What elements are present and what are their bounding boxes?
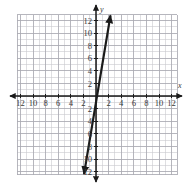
- x-tick-label: 2: [106, 98, 110, 108]
- y-tick-label: 6: [88, 53, 93, 63]
- y-tick-label: 4: [88, 116, 93, 126]
- x-tick-label: 12: [16, 98, 25, 108]
- x-tick-label: 4: [69, 98, 74, 108]
- graph-canvas: 12108642246810121210864224681012 x y: [0, 0, 192, 190]
- x-tick-label: 10: [155, 98, 164, 108]
- y-tick-label: 8: [88, 41, 92, 51]
- y-tick-label: 4: [88, 66, 93, 76]
- y-tick-label: 10: [83, 154, 92, 164]
- y-tick-label: 12: [83, 16, 92, 26]
- x-tick-label: 2: [81, 98, 85, 108]
- y-tick-label: 2: [88, 104, 92, 114]
- y-tick-label: 8: [88, 142, 92, 152]
- x-tick-label: 12: [167, 98, 176, 108]
- y-tick-label: 10: [83, 28, 92, 38]
- x-tick-label: 4: [119, 98, 124, 108]
- x-axis-label: x: [177, 81, 182, 90]
- y-axis-label: y: [99, 5, 104, 14]
- y-tick-label: 6: [88, 129, 93, 139]
- y-tick-label: 2: [88, 79, 92, 89]
- coordinate-plane-figure: 12108642246810121210864224681012 x y: [0, 0, 192, 190]
- x-tick-label: 10: [29, 98, 38, 108]
- x-tick-label: 8: [43, 98, 47, 108]
- x-tick-label: 6: [132, 98, 137, 108]
- x-tick-label: 6: [56, 98, 61, 108]
- x-tick-label: 8: [144, 98, 148, 108]
- y-tick-label: 12: [83, 167, 92, 177]
